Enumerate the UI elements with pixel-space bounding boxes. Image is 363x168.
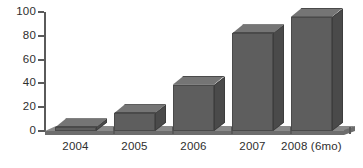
bar-side-face bbox=[273, 25, 284, 131]
bar-side-face bbox=[214, 76, 225, 131]
floor-front-face bbox=[45, 131, 344, 135]
bar-front-face bbox=[291, 17, 332, 131]
y-axis-tick-label: 80 bbox=[2, 29, 36, 41]
bar-front-face bbox=[232, 33, 273, 131]
plot-area: 020406080100 20042005200620072008 (6mo) bbox=[0, 0, 363, 168]
y-axis-tick-label: 0 bbox=[2, 124, 36, 136]
bar-front-face bbox=[55, 127, 96, 131]
bar bbox=[173, 85, 214, 131]
bar bbox=[55, 127, 96, 131]
y-axis-tick-label: 100 bbox=[2, 5, 36, 17]
bar-chart: 020406080100 20042005200620072008 (6mo) bbox=[0, 0, 363, 168]
bar-side-face bbox=[332, 8, 343, 131]
y-axis-tick-label: 20 bbox=[2, 100, 36, 112]
y-axis-tick-label: 40 bbox=[2, 76, 36, 88]
bar bbox=[232, 33, 273, 131]
x-axis-tick-label: 2008 (6mo) bbox=[277, 140, 346, 152]
bar bbox=[114, 113, 155, 131]
bar-front-face bbox=[114, 113, 155, 131]
bar bbox=[291, 17, 332, 131]
x-axis-tick bbox=[349, 127, 351, 134]
y-axis-tick-label: 60 bbox=[2, 53, 36, 65]
bar-front-face bbox=[173, 85, 214, 131]
